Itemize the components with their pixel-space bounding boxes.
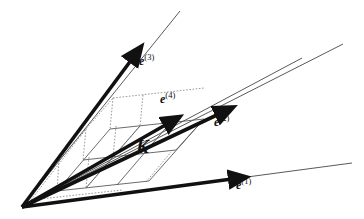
lattice-dotted-group — [31, 88, 204, 200]
lattice-dotted-line — [113, 88, 204, 98]
lattice-dotted-line — [110, 98, 113, 129]
lattice-dotted-line — [146, 152, 171, 182]
lattice-dotted-line — [140, 95, 143, 126]
vector-label-e1: e(1) — [236, 176, 251, 193]
vector-label-e4-sup: (4) — [165, 90, 175, 100]
vectors-group — [22, 59, 232, 207]
vector-label-e1-sup: (1) — [241, 176, 251, 186]
figure-canvas — [0, 0, 364, 219]
vector-label-e4: e(4) — [160, 90, 175, 107]
vector-label-e3-sup: (3) — [144, 52, 154, 62]
vector-cone-figure: e(1) e(2) e(3) e(4) K — [0, 0, 364, 219]
vector-label-e3: e(3) — [139, 52, 154, 69]
cell-label-k: K — [136, 136, 149, 158]
lattice-dotted-line — [83, 129, 86, 160]
vector-label-e2-sup: (2) — [219, 113, 229, 123]
vector-label-e2: e(2) — [214, 113, 229, 130]
